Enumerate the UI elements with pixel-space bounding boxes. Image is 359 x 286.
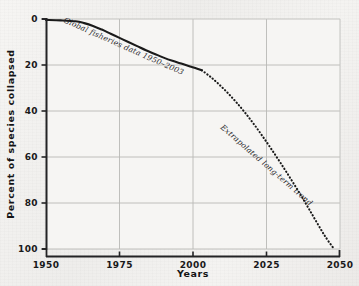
y-tick-label-100: 100: [18, 244, 38, 254]
x-tick-label-2050: 2050: [327, 260, 354, 270]
y-axis-title: Percent of species collapsed: [5, 49, 16, 219]
y-tick-label-40: 40: [25, 106, 38, 116]
chart-canvas: 020406080100 19501975200020252050 Percen…: [0, 0, 359, 286]
x-tick-label-2025: 2025: [253, 260, 280, 270]
x-tick-label-1975: 1975: [106, 260, 133, 270]
y-tick-label-60: 60: [25, 152, 38, 162]
y-tick-labels: 020406080100: [18, 14, 38, 254]
y-tick-label-20: 20: [25, 60, 38, 70]
y-tick-label-80: 80: [25, 198, 38, 208]
x-axis-title: Years: [176, 268, 209, 279]
x-tick-label-1950: 1950: [33, 260, 60, 270]
fisheries-collapse-chart: 020406080100 19501975200020252050 Percen…: [0, 0, 359, 286]
y-tick-label-0: 0: [31, 14, 38, 24]
